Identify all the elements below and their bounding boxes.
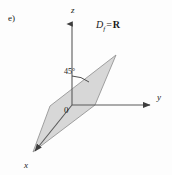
equals-sign: = [105,19,113,30]
domain-annotation: Df=R [96,20,120,33]
axis-label-y: y [157,93,161,102]
origin-label: 0 [64,106,69,115]
coordinate-system-graphic [0,0,172,175]
axis-label-z: z [71,6,75,15]
figure-3d-coordinate-plane: e) z y x 0 45° Df=R [0,0,172,175]
angle-label-45-degrees: 45° [64,68,75,76]
item-label: e) [8,14,15,23]
domain-value-real-set: R [113,19,120,30]
axis-label-x: x [24,161,28,170]
